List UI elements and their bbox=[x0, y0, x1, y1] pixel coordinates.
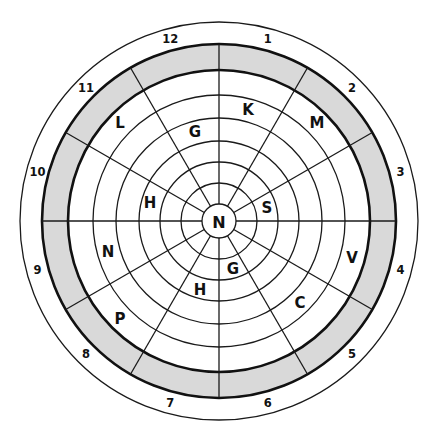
wheel-svg: N 123456789101112 KMLGHSNVGHCP bbox=[0, 0, 432, 442]
sector-letter: C bbox=[294, 294, 305, 312]
sector-letter: M bbox=[310, 114, 325, 132]
spoke-line bbox=[131, 236, 211, 375]
sector-letter: K bbox=[242, 101, 255, 119]
sector-number-label: 7 bbox=[166, 396, 174, 410]
sector-number-label: 8 bbox=[82, 347, 90, 361]
sector-number-label: 3 bbox=[397, 165, 405, 179]
sector-letter: V bbox=[346, 249, 358, 267]
spoke-line bbox=[66, 133, 205, 213]
center-letter: N bbox=[212, 213, 225, 232]
sector-number-label: 1 bbox=[264, 32, 272, 46]
spoke-line bbox=[228, 68, 308, 207]
sector-letter: H bbox=[144, 194, 157, 212]
sector-number-label: 10 bbox=[29, 165, 45, 179]
spoke-line bbox=[234, 133, 373, 213]
sector-letter: H bbox=[194, 281, 207, 299]
sector-letters: KMLGHSNVGHCP bbox=[102, 101, 358, 328]
letter-wheel-diagram: N 123456789101112 KMLGHSNVGHCP bbox=[0, 0, 432, 442]
sector-letter: G bbox=[227, 260, 239, 278]
sector-letter: S bbox=[262, 199, 273, 217]
sector-letter: G bbox=[189, 123, 201, 141]
sector-number-label: 12 bbox=[162, 32, 178, 46]
sector-letter: N bbox=[102, 243, 115, 261]
sector-number-label: 5 bbox=[348, 347, 356, 361]
sector-number-label: 9 bbox=[33, 263, 41, 277]
sector-number-label: 11 bbox=[78, 81, 94, 95]
spoke-line bbox=[66, 230, 205, 310]
sector-number-label: 4 bbox=[397, 263, 405, 277]
sector-number-label: 6 bbox=[264, 396, 272, 410]
sector-number-label: 2 bbox=[348, 81, 356, 95]
sector-letter: L bbox=[115, 114, 125, 132]
sector-letter: P bbox=[115, 310, 126, 328]
center-hub: N bbox=[202, 204, 236, 238]
